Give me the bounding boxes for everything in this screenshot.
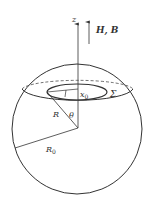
- x0-label: x0: [80, 90, 89, 100]
- z-label: z: [71, 15, 77, 24]
- sphere-diagram: z H, B x0 Σ R θ R0: [0, 0, 152, 206]
- radius-R-line: [47, 92, 78, 128]
- sigma-label: Σ: [109, 89, 117, 99]
- sigma-ellipse: [47, 84, 107, 100]
- field-label: H, B: [95, 25, 119, 36]
- cap-tick: [65, 90, 66, 97]
- theta-label: θ: [69, 111, 74, 120]
- latitude-dashed-arc: [22, 80, 133, 89]
- R0-label: R0: [45, 145, 56, 155]
- R-label: R: [52, 110, 59, 119]
- cap-radius-line: [47, 89, 78, 92]
